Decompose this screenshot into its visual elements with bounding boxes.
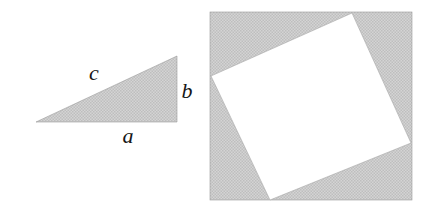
figure-root: a b c xyxy=(0,0,433,207)
label-hypotenuse-c: c xyxy=(89,60,99,85)
tilted-square-panel xyxy=(210,12,412,200)
figure-canvas: a b c xyxy=(0,0,433,207)
label-leg-b: b xyxy=(182,78,193,103)
label-leg-a: a xyxy=(123,123,134,148)
